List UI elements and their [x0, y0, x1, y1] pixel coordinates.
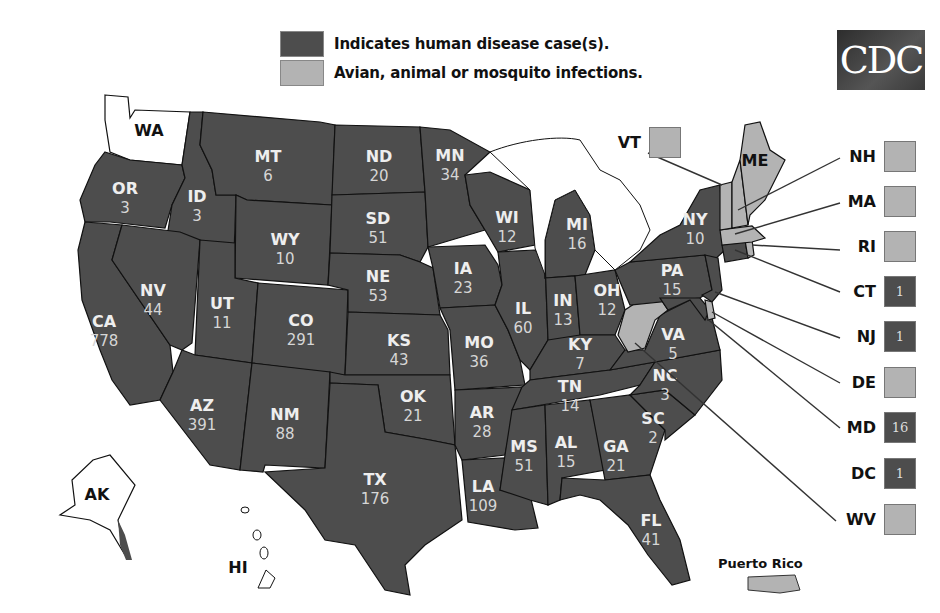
count-nc: 3 [660, 386, 670, 404]
label-mi: MI [566, 215, 588, 234]
callout-box-nj: 1 [884, 321, 916, 352]
count-mn: 34 [440, 166, 459, 184]
label-ms: MS [510, 437, 537, 456]
callout-de[interactable]: DE [830, 367, 916, 398]
territory-pr[interactable] [748, 575, 800, 593]
state-vt[interactable] [720, 182, 732, 230]
us-map: WA OR 3 CA 778 ID 3 NV 44 MT 6 WY 10 UT … [0, 0, 940, 613]
label-or: OR [112, 179, 138, 198]
label-mo: MO [464, 333, 494, 352]
count-ne: 53 [368, 287, 387, 305]
count-la: 109 [469, 497, 498, 515]
count-id: 3 [192, 207, 202, 225]
count-wy: 10 [275, 250, 294, 268]
count-ar: 28 [472, 423, 491, 441]
callout-ma[interactable]: MA [830, 186, 916, 217]
label-pa: PA [661, 261, 684, 280]
count-nm: 88 [275, 425, 294, 443]
label-az: AZ [190, 396, 214, 415]
count-al: 15 [556, 453, 575, 471]
callout-box-ct: 1 [884, 276, 916, 307]
territory-pr-label: Puerto Rico [718, 556, 803, 571]
callout-label-dc: DC [830, 464, 876, 483]
count-or: 3 [120, 199, 130, 217]
count-ny: 10 [685, 230, 704, 248]
count-mt: 6 [263, 167, 273, 185]
callout-label-md: MD [830, 418, 876, 437]
count-co: 291 [287, 331, 316, 349]
callout-dc[interactable]: DC 1 [830, 458, 916, 489]
state-me[interactable] [740, 122, 785, 225]
label-ky: KY [568, 335, 592, 354]
count-mo: 36 [469, 353, 488, 371]
label-wi: WI [495, 208, 519, 227]
count-ia: 23 [453, 279, 472, 297]
callout-nj[interactable]: NJ 1 [830, 321, 916, 352]
callout-box-ma [884, 186, 916, 217]
label-il: IL [515, 299, 531, 318]
label-ks: KS [387, 331, 411, 350]
label-sc: SC [641, 409, 664, 428]
count-az: 391 [188, 416, 217, 434]
label-ut: UT [210, 294, 234, 313]
callout-box-wv [884, 504, 916, 535]
label-tn: TN [558, 377, 582, 396]
state-fl[interactable] [560, 475, 690, 585]
leader-de [712, 312, 840, 383]
count-mi: 16 [567, 235, 586, 253]
callout-box-vt [649, 127, 681, 158]
count-nv: 44 [143, 301, 162, 319]
label-ny: NY [683, 210, 708, 229]
callout-wv[interactable]: WV [830, 504, 916, 535]
callout-vt[interactable]: VT [595, 127, 681, 158]
callout-label-wv: WV [830, 510, 876, 529]
count-in: 13 [553, 311, 572, 329]
leader-ri [752, 245, 840, 250]
callout-md[interactable]: MD 16 [830, 412, 916, 443]
callout-box-nh [884, 141, 916, 172]
label-ok: OK [400, 387, 427, 406]
callout-box-ri [884, 231, 916, 262]
label-ne: NE [366, 267, 390, 286]
count-va: 5 [668, 345, 678, 363]
callout-label-nj: NJ [830, 327, 876, 346]
count-ms: 51 [514, 457, 533, 475]
callout-label-de: DE [830, 373, 876, 392]
label-la: LA [472, 477, 495, 496]
count-sc: 2 [648, 429, 658, 447]
callout-box-de [884, 367, 916, 398]
label-nd: ND [366, 147, 393, 166]
label-me: ME [742, 151, 769, 170]
label-hi: HI [228, 558, 247, 577]
label-mn: MN [435, 146, 464, 165]
callout-label-ct: CT [830, 282, 876, 301]
count-ca: 778 [90, 332, 119, 350]
label-ar: AR [470, 403, 495, 422]
label-oh: OH [594, 281, 621, 300]
count-ok: 21 [403, 407, 422, 425]
count-ky: 7 [575, 355, 585, 373]
label-va: VA [661, 325, 685, 344]
label-sd: SD [366, 209, 391, 228]
leader-nj [715, 292, 840, 338]
count-il: 60 [513, 319, 532, 337]
callout-ct[interactable]: CT 1 [830, 276, 916, 307]
label-fl: FL [640, 511, 661, 530]
count-tn: 14 [560, 397, 579, 415]
label-ak: AK [85, 485, 110, 504]
count-sd: 51 [368, 229, 387, 247]
label-wy: WY [270, 230, 300, 249]
count-nd: 20 [369, 167, 388, 185]
leader-ct [735, 250, 840, 292]
count-oh: 12 [597, 301, 616, 319]
label-ia: IA [454, 259, 473, 278]
callout-nh[interactable]: NH [830, 141, 916, 172]
callout-ri[interactable]: RI [830, 231, 916, 262]
callout-label-nh: NH [830, 147, 876, 166]
label-ga: GA [603, 437, 629, 456]
callout-label-vt: VT [595, 133, 641, 152]
count-ga: 21 [606, 457, 625, 475]
label-nv: NV [140, 281, 166, 300]
label-al: AL [555, 433, 578, 452]
label-id: ID [187, 187, 206, 206]
